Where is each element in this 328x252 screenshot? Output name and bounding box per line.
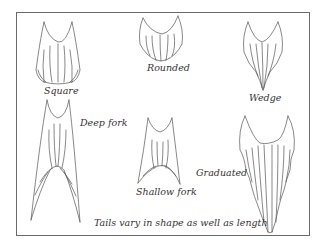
label-rounded: Rounded — [147, 63, 190, 73]
label-graduated: Graduated — [196, 168, 247, 178]
label-deep-fork: Deep fork — [80, 118, 128, 128]
square-tail-drawing — [36, 22, 80, 84]
caption: Tails vary in shape as well as length — [94, 218, 268, 228]
deep-fork-tail-drawing — [31, 100, 80, 222]
shallow-fork-tail-drawing — [138, 118, 180, 184]
wedge-tail-drawing — [244, 22, 283, 90]
graduated-tail-drawing — [240, 116, 295, 233]
label-shallow-fork: Shallow fork — [136, 187, 197, 197]
label-square: Square — [44, 86, 79, 96]
tail-illustrations — [0, 0, 328, 252]
label-wedge: Wedge — [249, 93, 281, 103]
rounded-tail-drawing — [139, 16, 182, 61]
